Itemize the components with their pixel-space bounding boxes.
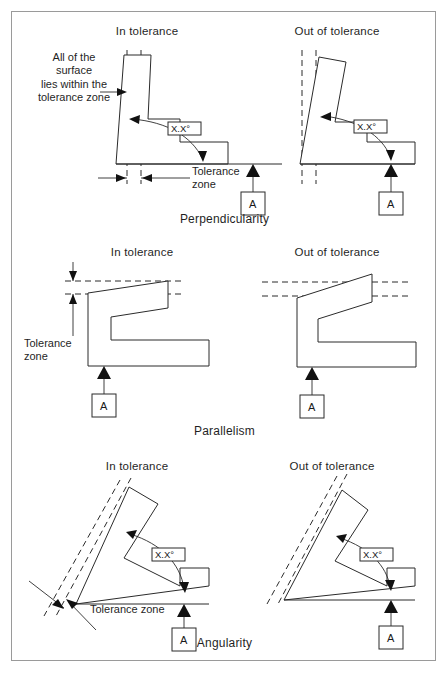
para-left-datum-triangle (97, 366, 111, 379)
section-angularity: In tolerance Out of tolerance Tolerance … (12, 448, 437, 662)
perp-left-angle-text: X.X° (171, 123, 190, 134)
ang-right-angle-text: X.X° (363, 549, 382, 560)
parallelism-caption: Parallelism (12, 424, 437, 438)
figure-page: In tolerance Out of tolerance All of the… (0, 0, 448, 673)
section-parallelism: In tolerance Out of tolerance Tolerance … (12, 236, 437, 448)
ang-left-part-outline (76, 487, 209, 604)
perp-right-datum-triangle (384, 164, 398, 177)
perp-left-datum-letter: A (249, 198, 257, 210)
para-right-datum-triangle (305, 367, 319, 380)
perp-left-dim-arrow-left (116, 174, 126, 182)
ang-right-part-outline (284, 490, 415, 600)
angularity-drawing: X.X° A X.X° (12, 448, 437, 662)
section-perpendicularity: In tolerance Out of tolerance All of the… (12, 12, 437, 236)
parallelism-drawing: A A (12, 236, 437, 448)
perp-left-datum-triangle (246, 164, 260, 177)
angularity-caption: Angularity (12, 636, 437, 650)
perp-right-angle-text: X.X° (357, 121, 376, 132)
perp-left-part-outline (116, 55, 228, 164)
figure-border: In tolerance Out of tolerance All of the… (11, 11, 436, 661)
ang-left-datum-triangle (177, 604, 191, 617)
para-right-part-outline (297, 274, 416, 367)
perpendicularity-caption: Perpendicularity (12, 212, 437, 226)
para-left-part-outline (88, 281, 209, 366)
ang-right-datum-triangle (384, 600, 398, 613)
perpendicularity-drawing: X.X° A X.X° (12, 12, 437, 236)
para-left-dim-arrow-lower (69, 294, 77, 304)
para-right-datum-letter: A (308, 401, 316, 413)
para-left-datum-letter: A (100, 400, 108, 412)
perp-left-dim-arrow-right (142, 174, 152, 182)
para-left-dim-arrow-upper (69, 271, 77, 281)
ang-left-angle-text: X.X° (155, 549, 174, 560)
perp-right-part-outline (300, 57, 415, 164)
ang-left-zone-arrow-2 (66, 599, 78, 609)
perp-right-datum-letter: A (387, 198, 395, 210)
